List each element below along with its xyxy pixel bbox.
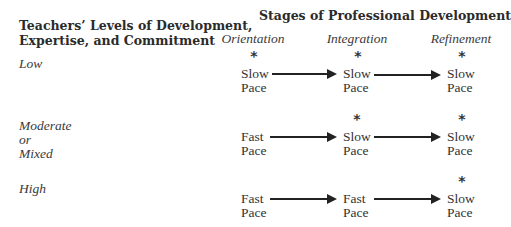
arrow-right-icon [270, 136, 335, 138]
level-line: Moderate [19, 119, 71, 133]
arrow-right-icon [374, 136, 439, 138]
cell-moderate-refinement: Slow Pace [447, 130, 475, 157]
arrow-right-icon [270, 198, 335, 200]
pace-value: Fast [241, 192, 266, 206]
cell-low-integration: Slow Pace [343, 67, 371, 94]
pace-value: Fast [343, 192, 368, 206]
pace-word: Pace [447, 206, 475, 220]
stage-label-refinement: Refinement [431, 31, 492, 47]
levels-header-line2: Expertise, and Commitment [19, 33, 252, 48]
stages-title: Stages of Professional Development [259, 8, 511, 23]
asterisk-icon: * [458, 111, 465, 127]
arrow-right-icon [272, 73, 335, 75]
arrow-right-icon [374, 74, 439, 76]
asterisk-icon: * [353, 111, 360, 127]
asterisk-icon: * [458, 48, 465, 64]
pace-word: Pace [447, 144, 475, 158]
arrow-right-icon [374, 198, 439, 200]
pace-word: Pace [343, 81, 371, 95]
pace-word: Pace [343, 206, 368, 220]
cell-low-refinement: Slow Pace [447, 67, 475, 94]
pace-value: Fast [241, 130, 266, 144]
levels-header-line1: Teachers’ Levels of Development, [19, 18, 252, 33]
level-moderate-mixed: Moderate or Mixed [19, 119, 71, 161]
pace-word: Pace [343, 144, 371, 158]
pace-value: Slow [241, 67, 269, 81]
asterisk-icon: * [250, 48, 257, 64]
pace-value: Slow [343, 130, 371, 144]
cell-high-refinement: Slow Pace [447, 192, 475, 219]
pace-value: Slow [447, 192, 475, 206]
pace-word: Pace [241, 144, 266, 158]
cell-moderate-integration: Slow Pace [343, 130, 371, 157]
cell-high-orientation: Fast Pace [241, 192, 266, 219]
cell-low-orientation: Slow Pace [241, 67, 269, 94]
level-low: Low [19, 57, 42, 71]
level-high: High [19, 182, 46, 196]
pace-word: Pace [447, 81, 475, 95]
cell-high-integration: Fast Pace [343, 192, 368, 219]
stage-label-integration: Integration [327, 31, 388, 47]
pace-value: Slow [447, 67, 475, 81]
level-line: or [19, 133, 71, 147]
levels-header: Teachers’ Levels of Development, Experti… [19, 18, 252, 48]
stage-label-orientation: Orientation [222, 31, 285, 47]
pace-word: Pace [241, 81, 269, 95]
level-line: Mixed [19, 147, 71, 161]
asterisk-icon: * [458, 173, 465, 189]
pace-word: Pace [241, 206, 266, 220]
pace-value: Slow [447, 130, 475, 144]
cell-moderate-orientation: Fast Pace [241, 130, 266, 157]
asterisk-icon: * [354, 48, 361, 64]
pace-value: Slow [343, 67, 371, 81]
